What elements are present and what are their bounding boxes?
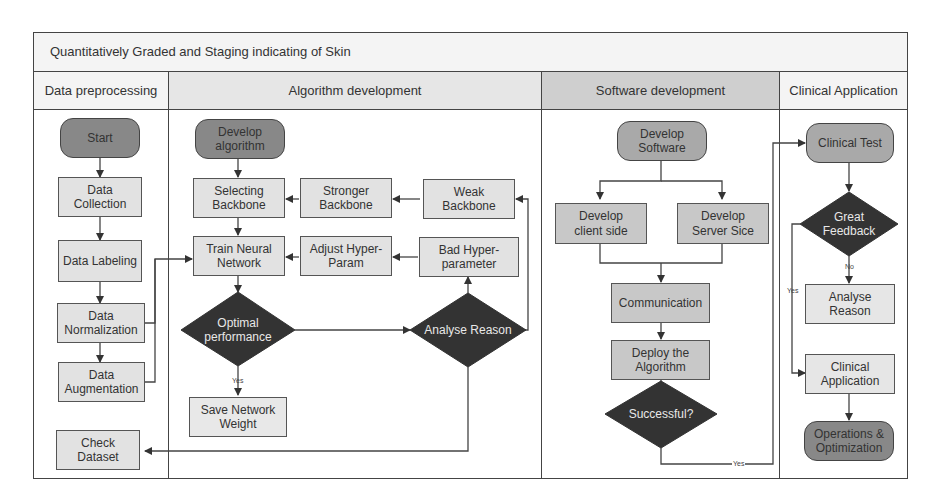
- clinical-application-box: Clinical Application: [805, 354, 895, 394]
- stronger-backbone-box: Stronger Backbone: [300, 178, 392, 218]
- successful-decision: Successful?: [612, 404, 710, 424]
- develop-client-label: Develop client side: [566, 209, 636, 238]
- clinical-analyse-reason-label: Analyse Reason: [820, 290, 880, 319]
- develop-software-terminal: Develop Software: [617, 121, 707, 161]
- train-network-box: Train Neural Network: [193, 236, 285, 276]
- data-augmentation-label: Data Augmentation: [62, 368, 142, 397]
- communication-box: Communication: [611, 283, 710, 323]
- optimal-performance-label: Optimal performance: [198, 316, 278, 345]
- develop-server-label: Develop Server Sice: [683, 209, 763, 238]
- stronger-backbone-label: Stronger Backbone: [311, 184, 381, 213]
- data-augmentation-box: Data Augmentation: [58, 362, 145, 402]
- start-terminal: Start: [60, 118, 140, 158]
- data-normalization-box: Data Normalization: [57, 303, 145, 343]
- analyse-reason-label: Analyse Reason: [424, 323, 511, 337]
- analyse-reason-decision: Analyse Reason: [412, 320, 524, 340]
- adjust-hyperparam-box: Adjust Hyper-Param: [300, 236, 392, 276]
- weak-backbone-box: Weak Backbone: [423, 179, 515, 219]
- deploy-algorithm-label: Deploy the Algorithm: [616, 346, 706, 375]
- selecting-backbone-label: Selecting Backbone: [204, 184, 274, 213]
- clinical-application-label: Clinical Application: [815, 360, 885, 389]
- clinical-analyse-reason-box: Analyse Reason: [805, 284, 895, 324]
- yes-label-feedback: Yes: [787, 287, 798, 294]
- bad-hyperparam-label: Bad Hyper-parameter: [420, 243, 518, 272]
- train-network-label: Train Neural Network: [194, 242, 284, 271]
- clinical-test-terminal: Clinical Test: [806, 123, 894, 163]
- start-label: Start: [87, 131, 112, 145]
- selecting-backbone-box: Selecting Backbone: [193, 178, 285, 218]
- optimal-performance-decision: Optimal performance: [190, 312, 286, 348]
- great-feedback-decision: Great Feedback: [808, 207, 890, 241]
- yes-label-successful: Yes: [732, 460, 745, 467]
- weak-backbone-label: Weak Backbone: [434, 185, 504, 214]
- save-weight-label: Save Network Weight: [190, 403, 286, 432]
- data-collection-box: Data Collection: [58, 177, 142, 217]
- save-weight-box: Save Network Weight: [189, 397, 287, 437]
- develop-algorithm-label: Develop algorithm: [210, 125, 270, 154]
- deploy-algorithm-box: Deploy the Algorithm: [611, 340, 710, 380]
- check-dataset-label: Check Dataset: [73, 436, 123, 465]
- great-feedback-label: Great Feedback: [814, 210, 884, 239]
- data-normalization-label: Data Normalization: [61, 309, 141, 338]
- adjust-hyperparam-label: Adjust Hyper-Param: [302, 242, 390, 271]
- clinical-test-label: Clinical Test: [818, 136, 882, 150]
- develop-software-label: Develop Software: [632, 127, 692, 156]
- check-dataset-box: Check Dataset: [56, 430, 140, 470]
- data-labeling-box: Data Labeling: [58, 240, 142, 282]
- operations-label: Operations & Optimization: [807, 427, 891, 456]
- operations-terminal: Operations & Optimization: [804, 421, 894, 461]
- bad-hyperparam-box: Bad Hyper-parameter: [419, 237, 519, 277]
- communication-label: Communication: [619, 296, 702, 310]
- data-collection-label: Data Collection: [70, 183, 130, 212]
- no-label-feedback: No: [845, 263, 854, 270]
- develop-algorithm-terminal: Develop algorithm: [195, 119, 285, 159]
- data-labeling-label: Data Labeling: [63, 254, 137, 268]
- develop-client-box: Develop client side: [555, 203, 647, 244]
- develop-server-box: Develop Server Sice: [677, 203, 769, 244]
- yes-label-optimal: Yes: [232, 377, 243, 384]
- successful-label: Successful?: [629, 407, 694, 421]
